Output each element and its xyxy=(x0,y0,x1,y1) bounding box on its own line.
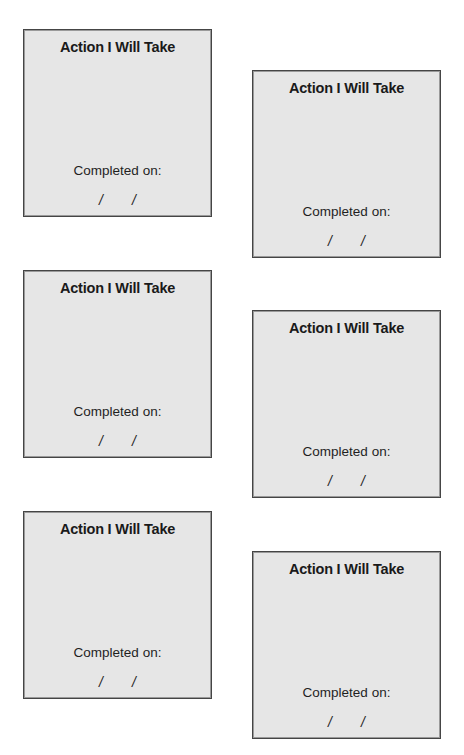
action-card-2: Action I Will Take Completed on: // xyxy=(252,70,441,258)
card-title: Action I Will Take xyxy=(253,320,440,336)
action-card-1: Action I Will Take Completed on: // xyxy=(23,29,212,217)
date-separator: / xyxy=(85,674,118,690)
completion-date-field[interactable]: // xyxy=(24,192,211,208)
date-separator: / xyxy=(347,473,380,489)
action-card-6: Action I Will Take Completed on: // xyxy=(252,551,441,739)
completion-date-field[interactable]: // xyxy=(24,433,211,449)
completion-date-field[interactable]: // xyxy=(253,714,440,730)
completed-on-label: Completed on: xyxy=(24,645,211,660)
completed-on-label: Completed on: xyxy=(24,163,211,178)
date-separator: / xyxy=(347,714,380,730)
date-separator: / xyxy=(118,192,151,208)
completed-on-label: Completed on: xyxy=(253,204,440,219)
date-separator: / xyxy=(347,233,380,249)
completion-date-field[interactable]: // xyxy=(24,674,211,690)
completed-on-label: Completed on: xyxy=(253,685,440,700)
card-title: Action I Will Take xyxy=(24,39,211,55)
card-title: Action I Will Take xyxy=(253,561,440,577)
completed-on-label: Completed on: xyxy=(253,444,440,459)
card-title: Action I Will Take xyxy=(24,280,211,296)
action-card-3: Action I Will Take Completed on: // xyxy=(23,270,212,458)
completion-date-field[interactable]: // xyxy=(253,233,440,249)
date-separator: / xyxy=(118,433,151,449)
card-title: Action I Will Take xyxy=(253,80,440,96)
date-separator: / xyxy=(85,433,118,449)
date-separator: / xyxy=(314,714,347,730)
card-title: Action I Will Take xyxy=(24,521,211,537)
action-card-4: Action I Will Take Completed on: // xyxy=(252,310,441,498)
date-separator: / xyxy=(314,473,347,489)
action-card-5: Action I Will Take Completed on: // xyxy=(23,511,212,699)
completion-date-field[interactable]: // xyxy=(253,473,440,489)
completed-on-label: Completed on: xyxy=(24,404,211,419)
date-separator: / xyxy=(314,233,347,249)
date-separator: / xyxy=(118,674,151,690)
date-separator: / xyxy=(85,192,118,208)
